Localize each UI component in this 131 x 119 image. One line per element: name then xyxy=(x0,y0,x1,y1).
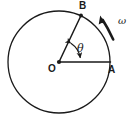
radius-ob-line xyxy=(59,16,81,63)
label-angle-theta: θ xyxy=(77,43,84,54)
label-point-b: B xyxy=(79,1,86,11)
point-b-dot xyxy=(79,14,83,18)
figure-canvas xyxy=(0,0,131,119)
label-center-o: O xyxy=(48,64,56,74)
label-angular-velocity-omega: ω xyxy=(118,16,126,26)
circular-motion-figure: O A B θ ω xyxy=(0,0,131,119)
center-point-dot xyxy=(57,60,61,64)
label-point-a: A xyxy=(108,65,115,75)
